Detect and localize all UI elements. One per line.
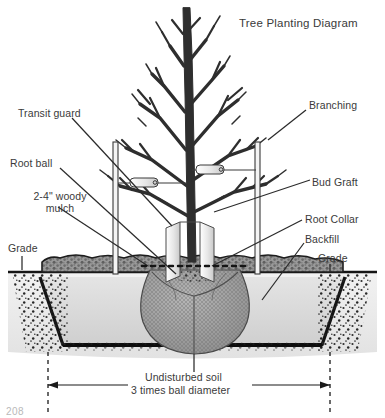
label-ball-diameter-dimension: 3 times ball diameter xyxy=(131,385,230,397)
label-transit-guard: Transit guard xyxy=(18,108,81,120)
root-ball xyxy=(141,270,250,354)
label-grade-left: Grade xyxy=(8,243,38,255)
label-root-ball: Root ball xyxy=(10,158,52,170)
turnbuckle-upper xyxy=(196,165,224,174)
label-woody-mulch: 2-4" woody mulch xyxy=(8,191,112,214)
page-title: Tree Planting Diagram xyxy=(239,17,358,29)
label-grade-right: Grade xyxy=(318,253,348,265)
label-undisturbed-soil: Undisturbed soil xyxy=(145,372,222,384)
label-root-collar: Root Collar xyxy=(305,214,359,226)
page-number: 208 xyxy=(6,406,24,417)
tree-planting-diagram: Tree Planting Diagram Transit guard Root… xyxy=(0,0,385,418)
label-bud-graft: Bud Graft xyxy=(312,177,358,189)
label-backfill: Backfill xyxy=(305,234,339,246)
label-branching: Branching xyxy=(309,100,357,112)
